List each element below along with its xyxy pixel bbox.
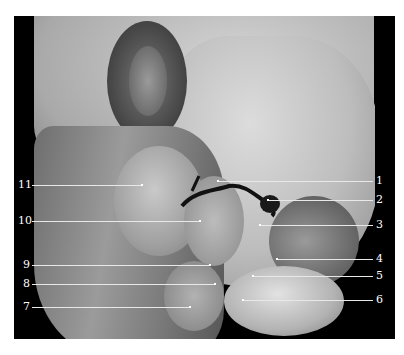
leader-line-11 (32, 185, 142, 186)
anatomy-photo (14, 16, 395, 339)
label-3: 3 (376, 219, 383, 230)
leader-line-1 (218, 181, 373, 182)
leader-line-9 (32, 265, 210, 266)
label-2: 2 (376, 194, 383, 205)
pointer-dot (259, 224, 261, 226)
label-1: 1 (376, 175, 383, 186)
parotid-duct (14, 16, 395, 339)
pointer-dot (252, 275, 254, 277)
label-11: 11 (18, 179, 32, 190)
leader-line-4 (277, 259, 373, 260)
pointer-dot (242, 299, 244, 301)
pointer-dot (141, 184, 143, 186)
leader-line-5 (253, 276, 373, 277)
pointer-dot (189, 306, 191, 308)
label-9: 9 (23, 259, 30, 270)
pointer-dot (209, 264, 211, 266)
pointer-dot (199, 220, 201, 222)
label-4: 4 (376, 253, 383, 264)
label-8: 8 (23, 278, 30, 289)
pointer-dot (276, 258, 278, 260)
label-10: 10 (18, 215, 32, 226)
leader-line-6 (243, 300, 373, 301)
pointer-dot (267, 199, 269, 201)
leader-line-8 (32, 284, 215, 285)
pointer-dot (214, 283, 216, 285)
leader-line-3 (260, 225, 373, 226)
label-5: 5 (376, 270, 383, 281)
label-7: 7 (23, 301, 30, 312)
pointer-dot (217, 180, 219, 182)
leader-line-7 (32, 307, 190, 308)
label-6: 6 (376, 294, 383, 305)
leader-line-10 (32, 221, 200, 222)
leader-line-2 (268, 200, 373, 201)
